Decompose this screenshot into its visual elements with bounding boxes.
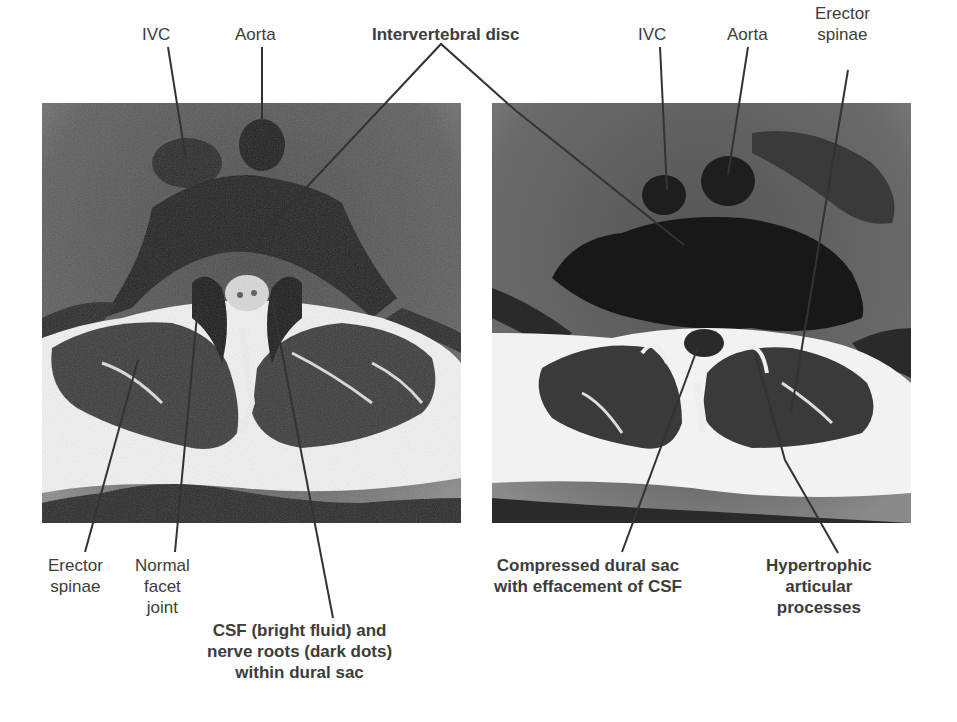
label-line: Erector: [815, 3, 870, 24]
label-line: articular: [766, 576, 872, 597]
label-line: Compressed dural sac: [494, 555, 682, 576]
label-csf-nerve-roots: CSF (bright fluid) and nerve roots (dark…: [207, 620, 392, 683]
label-line: processes: [766, 597, 872, 618]
label-ivc-right: IVC: [638, 24, 666, 45]
label-line: within dural sac: [207, 662, 392, 683]
label-line: spinae: [815, 24, 870, 45]
mri-panel-normal: [42, 103, 461, 523]
label-line: CSF (bright fluid) and: [207, 620, 392, 641]
label-compressed-dural-sac: Compressed dural sac with effacement of …: [494, 555, 682, 597]
label-normal-facet-joint: Normal facet joint: [135, 555, 190, 618]
label-erector-spinae-right: Erector spinae: [815, 3, 870, 45]
label-hypertrophic-articular-processes: Hypertrophic articular processes: [766, 555, 872, 618]
label-line: Hypertrophic: [766, 555, 872, 576]
label-aorta-right: Aorta: [727, 24, 768, 45]
label-line: Erector: [48, 555, 103, 576]
label-line: Normal: [135, 555, 190, 576]
mri-image-stenosis: [492, 103, 911, 523]
label-erector-spinae-left: Erector spinae: [48, 555, 103, 597]
label-aorta-left: Aorta: [235, 24, 276, 45]
mri-panel-stenosis: [492, 103, 911, 523]
label-ivc-left: IVC: [142, 24, 170, 45]
label-line: with effacement of CSF: [494, 576, 682, 597]
label-intervertebral-disc: Intervertebral disc: [372, 24, 519, 45]
label-line: facet: [135, 576, 190, 597]
label-line: spinae: [48, 576, 103, 597]
mri-image-normal: [42, 103, 461, 523]
label-line: nerve roots (dark dots): [207, 641, 392, 662]
label-line: joint: [135, 597, 190, 618]
